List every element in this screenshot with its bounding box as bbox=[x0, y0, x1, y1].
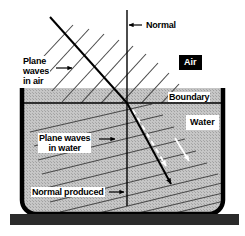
label-plane-waves-in-water-line2: in water bbox=[38, 143, 91, 153]
refraction-diagram: Plane waves in air Normal Boundary Plane… bbox=[0, 0, 245, 236]
wavefront-air bbox=[52, 34, 104, 91]
label-water-medium: Water bbox=[186, 115, 219, 130]
label-plane-waves-in-air-line1: Plane bbox=[22, 56, 50, 66]
label-plane-waves-in-air: Plane waves in air bbox=[22, 56, 50, 86]
label-plane-waves-in-water-line1: Plane waves bbox=[38, 133, 91, 143]
label-boundary: Boundary bbox=[168, 92, 210, 102]
label-plane-waves-in-air-line2: waves bbox=[22, 66, 50, 76]
label-normal-produced: Normal produced bbox=[31, 187, 105, 197]
label-plane-waves-in-water: Plane waves in water bbox=[38, 133, 91, 153]
label-air-medium: Air bbox=[179, 55, 202, 70]
label-plane-waves-in-air-line3: in air bbox=[22, 76, 50, 86]
base-bar bbox=[10, 214, 239, 225]
label-normal: Normal bbox=[145, 20, 177, 30]
